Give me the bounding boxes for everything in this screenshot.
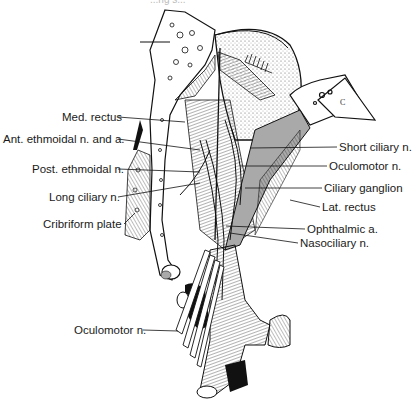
label-long-ciliary-nerve: Long ciliary n. (49, 191, 120, 204)
label-oculomotor-nerve-upper: Oculomotor n. (329, 160, 401, 173)
label-short-ciliary-nerve: Short ciliary n. (339, 141, 412, 154)
label-nasociliary-nerve: Nasociliary n. (300, 237, 369, 250)
label-ophthalmic-artery: Ophthalmic a. (307, 223, 378, 236)
label-lat-rectus: Lat. rectus (322, 201, 376, 214)
label-ciliary-ganglion: Ciliary ganglion (324, 182, 403, 195)
svg-text:C: C (340, 98, 345, 107)
label-cribriform-plate: Cribriform plate (43, 218, 122, 231)
label-oculomotor-nerve-lower: Oculomotor n. (74, 324, 146, 337)
label-med-rectus: Med. rectus (62, 111, 122, 124)
label-post-ethmoidal-nerve: Post. ethmoidal n. (32, 163, 124, 176)
label-ant-ethmoidal-nerve-artery: Ant. ethmoidal n. and a. (3, 133, 124, 146)
